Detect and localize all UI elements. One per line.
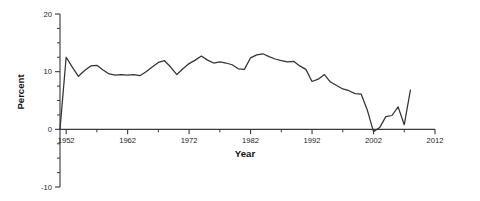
data-line xyxy=(60,54,410,132)
data-series-group xyxy=(60,54,410,132)
x-tick-label: 1982 xyxy=(242,136,259,145)
y-tick-label: -10 xyxy=(41,183,52,192)
line-chart: -1001020 1952196219721982199220022012 Ye… xyxy=(0,0,480,201)
x-axis-title: Year xyxy=(235,148,256,159)
y-tick-label: 0 xyxy=(48,125,52,134)
y-axis-title: Percent xyxy=(15,74,26,110)
x-axis: 1952196219721982199220022012 xyxy=(58,129,444,145)
x-tick-label: 2012 xyxy=(427,136,444,145)
x-tick-label: 1992 xyxy=(304,136,321,145)
x-tick-label: 1972 xyxy=(181,136,198,145)
x-tick-label: 2002 xyxy=(365,136,382,145)
x-tick-label: 1952 xyxy=(58,136,75,145)
y-tick-label: 10 xyxy=(44,67,52,76)
y-tick-label: 20 xyxy=(44,10,52,19)
x-tick-label: 1962 xyxy=(119,136,136,145)
chart-canvas: -1001020 1952196219721982199220022012 Ye… xyxy=(0,0,480,201)
y-axis: -1001020 xyxy=(41,10,60,192)
